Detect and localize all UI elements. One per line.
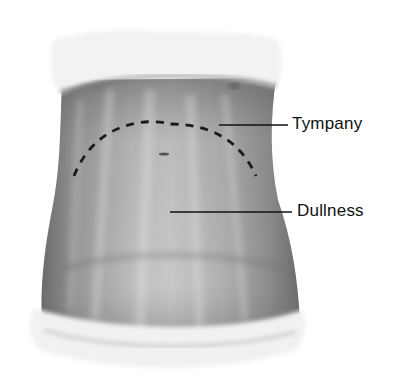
- dullness-label: Dullness: [297, 201, 364, 221]
- abdomen-illustration: [0, 0, 400, 383]
- tympany-label: Tympany: [292, 114, 362, 134]
- navel: [159, 153, 169, 156]
